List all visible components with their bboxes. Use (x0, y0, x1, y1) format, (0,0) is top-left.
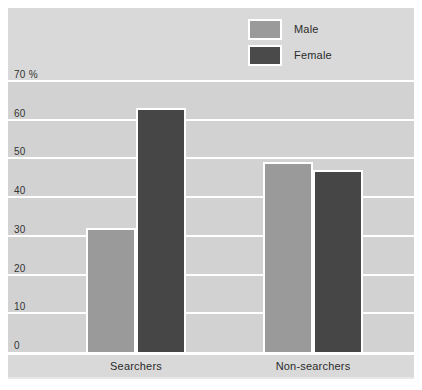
female-swatch-icon (248, 45, 282, 66)
y-tick-label: 60 (14, 108, 26, 119)
y-tick-label: 0 (14, 340, 20, 351)
x-axis-category-band: Searchers Non-searchers (8, 355, 414, 379)
x-axis-label-searchers: Searchers (56, 360, 216, 372)
chart-header-band: Male Female (8, 8, 414, 81)
bar-chart: Male Female 70 %6050403020100 Searchers … (0, 0, 422, 390)
category-band-underline (8, 377, 414, 379)
y-tick-label: 40 (14, 185, 26, 196)
bar-searchers-male (86, 228, 136, 352)
plot-area (8, 81, 414, 352)
bar-non-searchers-female (313, 170, 363, 352)
y-tick-label: 10 (14, 301, 26, 312)
y-tick-label: 70 % (14, 69, 38, 80)
legend-item-male: Male (248, 16, 408, 42)
legend: Male Female (248, 16, 408, 68)
legend-item-female: Female (248, 42, 408, 68)
y-tick-label: 50 (14, 146, 26, 157)
male-swatch-icon (248, 19, 282, 40)
chart-panel: Male Female 70 %6050403020100 Searchers … (8, 8, 414, 379)
legend-label-female: Female (294, 49, 332, 61)
y-tick-label: 30 (14, 224, 26, 235)
legend-label-male: Male (294, 23, 319, 35)
bar-non-searchers-male (263, 162, 313, 352)
x-axis-label-non-searchers: Non-searchers (233, 360, 393, 372)
bar-searchers-female (136, 108, 186, 352)
bars-layer (8, 81, 414, 352)
y-tick-label: 20 (14, 263, 26, 274)
